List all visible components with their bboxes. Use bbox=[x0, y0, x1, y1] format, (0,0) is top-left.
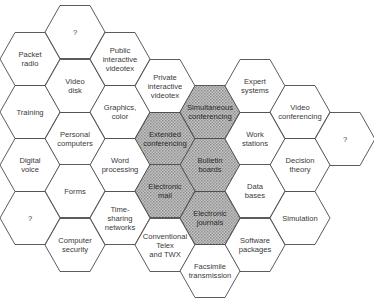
hex-label-line: Electronic bbox=[193, 209, 227, 218]
hex-label-line: ? bbox=[343, 135, 347, 144]
hex-label: Databases bbox=[245, 182, 265, 200]
hex-label: ? bbox=[73, 28, 77, 37]
hex-label-line: disk bbox=[68, 86, 82, 95]
hex-label-line: sharing bbox=[108, 214, 133, 223]
hex-label: ? bbox=[28, 214, 32, 223]
hex-label-line: Telex bbox=[156, 241, 174, 250]
hex-label: Bulletinboards bbox=[198, 156, 223, 174]
hex-label: Personalcomputers bbox=[57, 130, 93, 148]
hex-label: Training bbox=[16, 108, 43, 117]
hex-label-line: Simulation bbox=[282, 214, 317, 223]
hex-label-line: packages bbox=[239, 245, 272, 254]
hex-label-line: bases bbox=[245, 191, 265, 200]
hex-label-line: Simultaneous bbox=[187, 103, 233, 112]
hex-label-line: Public bbox=[110, 46, 131, 55]
hex-label: Electronicjournals bbox=[193, 209, 227, 227]
hex-label-line: Expert bbox=[244, 77, 267, 86]
hex-label-line: stations bbox=[242, 139, 268, 148]
hex-label-line: Software bbox=[240, 236, 270, 245]
hex-label-line: videotex bbox=[151, 91, 179, 100]
hex-label: Extendedconferencing bbox=[143, 130, 186, 148]
hex-label-line: mail bbox=[158, 191, 172, 200]
hex-label-line: theory bbox=[289, 165, 310, 174]
hex-label-line: videotex bbox=[106, 64, 134, 73]
hex-label-line: Extended bbox=[149, 130, 181, 139]
hex-label-line: interactive bbox=[103, 55, 138, 64]
hex-label-line: color bbox=[112, 112, 129, 121]
hex-label: Forms bbox=[64, 187, 86, 196]
hexagon-technology-map: ?PacketradioVideodiskPublicinteractivevi… bbox=[0, 0, 374, 301]
hex-label-line: Word bbox=[111, 156, 129, 165]
hex-label: Facsimiletransmission bbox=[189, 262, 232, 280]
hex-label-line: Video bbox=[65, 77, 84, 86]
hex-grid: ?PacketradioVideodiskPublicinteractivevi… bbox=[0, 6, 374, 298]
hex-label-line: conferencing bbox=[278, 112, 321, 121]
hex-label-line: Forms bbox=[64, 187, 86, 196]
hex-label-line: Graphics, bbox=[104, 103, 137, 112]
hex-label-line: ? bbox=[28, 214, 32, 223]
hex-label: Softwarepackages bbox=[239, 236, 272, 254]
hex-label: Videodisk bbox=[65, 77, 84, 95]
hex-label-line: journals bbox=[196, 218, 224, 227]
hex-label-line: security bbox=[62, 245, 88, 254]
hex-label-line: voice bbox=[21, 165, 39, 174]
hex-label-line: Digital bbox=[19, 156, 40, 165]
hex-label-line: Facsimile bbox=[194, 262, 226, 271]
hex-label: Simultaneousconferencing bbox=[187, 103, 233, 121]
hex-label-line: Computer bbox=[58, 236, 92, 245]
hex-label: Digitalvoice bbox=[19, 156, 40, 174]
hex-label-line: Work bbox=[246, 130, 264, 139]
hex-label-line: Decision bbox=[285, 156, 314, 165]
hex-label-line: interactive bbox=[148, 82, 183, 91]
hex-label-line: boards bbox=[198, 165, 221, 174]
hex-label-line: Bulletin bbox=[198, 156, 223, 165]
hex-label: Expertsystems bbox=[241, 77, 269, 95]
hex-label-line: Private bbox=[153, 73, 177, 82]
hex-label: Simulation bbox=[282, 214, 317, 223]
hex-label-line: Packet bbox=[18, 50, 42, 59]
hex-label-line: processing bbox=[102, 165, 139, 174]
hex-label-line: computers bbox=[57, 139, 93, 148]
hex-label-line: conferencing bbox=[143, 139, 186, 148]
hex-label: Computersecurity bbox=[58, 236, 92, 254]
hex-label-line: Personal bbox=[60, 130, 90, 139]
hex-label-line: ? bbox=[73, 28, 77, 37]
hex-label-line: and TWX bbox=[149, 250, 181, 259]
hex-label-line: Training bbox=[16, 108, 43, 117]
hex-label-line: Data bbox=[247, 182, 264, 191]
hex-label-line: Electronic bbox=[148, 182, 182, 191]
hex-label-line: Time- bbox=[110, 205, 130, 214]
hex-label-line: conferencing bbox=[188, 112, 231, 121]
hex-label-line: networks bbox=[105, 223, 136, 232]
hex-label: Decisiontheory bbox=[285, 156, 314, 174]
hex-label-line: transmission bbox=[189, 271, 232, 280]
hex-label-line: systems bbox=[241, 86, 269, 95]
hex-label-line: Video bbox=[290, 103, 309, 112]
hex-label-line: radio bbox=[22, 59, 39, 68]
hex-label: ? bbox=[343, 135, 347, 144]
hex-label-line: Conventional bbox=[143, 232, 188, 241]
